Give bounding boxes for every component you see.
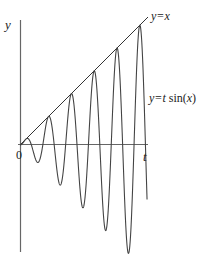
t-axis-label: t: [143, 149, 147, 164]
curve-label-close: ): [192, 91, 196, 105]
chart-canvas: y t 0 y=x y=t sin(x): [0, 0, 208, 267]
line-y-equals-x: [20, 17, 148, 145]
line-label: y=x: [150, 9, 170, 23]
y-axis-label: y: [3, 17, 11, 32]
curve-label-func: sin(: [169, 91, 187, 105]
curve-t-sin-t: [20, 25, 147, 253]
origin-label: 0: [16, 148, 22, 162]
curve-label: y=t sin(x): [148, 91, 196, 105]
curve-label-main: y=t: [148, 91, 169, 105]
